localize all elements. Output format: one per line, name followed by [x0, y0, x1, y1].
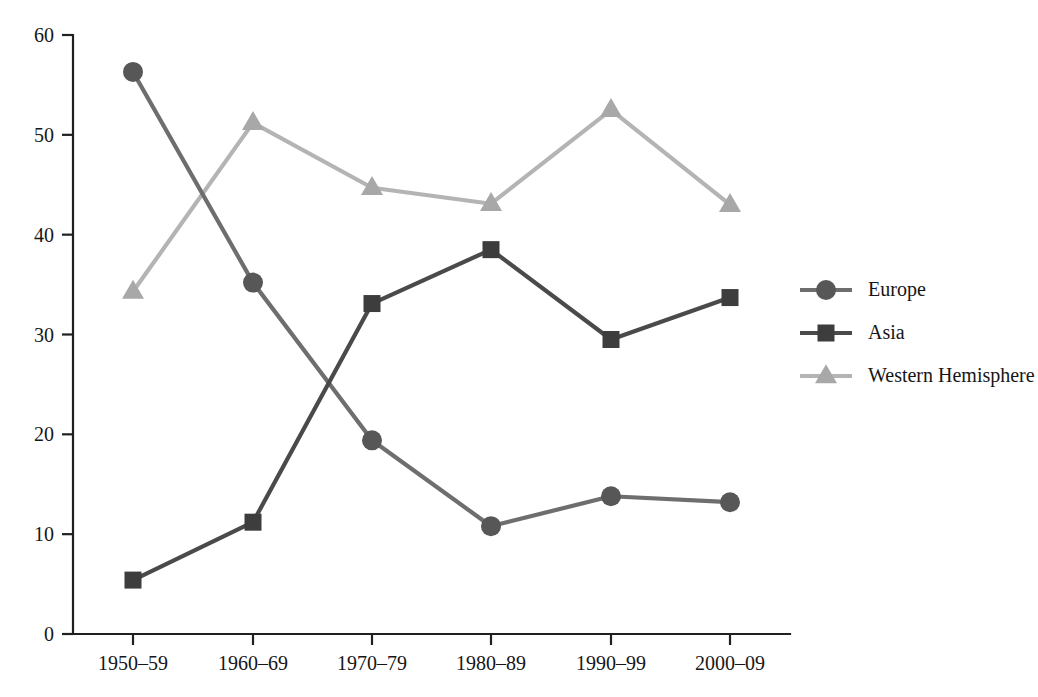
- data-point-europe-5-circle-marker: [720, 492, 740, 512]
- y-tick-label: 10: [34, 523, 54, 545]
- x-tick-label: 1950–59: [98, 652, 168, 674]
- legend-label: Asia: [868, 321, 905, 343]
- legend-item-europe[interactable]: Europe: [800, 278, 926, 301]
- x-axis: 1950–591960–691970–791980–891990–992000–…: [73, 634, 790, 674]
- data-point-western-hemisphere-5-triangle-marker: [719, 193, 741, 212]
- series-western-hemisphere: [122, 98, 741, 299]
- x-tick-label: 1980–89: [456, 652, 526, 674]
- data-point-asia-0-square-marker: [125, 572, 142, 589]
- data-point-asia-4-square-marker: [603, 331, 620, 348]
- data-point-europe-4-circle-marker: [601, 486, 621, 506]
- x-tick-label-group: 1950–591960–691970–791980–891990–992000–…: [98, 652, 765, 674]
- chart-legend: EuropeAsiaWestern Hemisphere: [800, 278, 1035, 387]
- series-line: [133, 110, 730, 292]
- x-tick-label: 1960–69: [218, 652, 288, 674]
- legend-item-western-hemisphere[interactable]: Western Hemisphere: [800, 364, 1035, 387]
- series-europe: [123, 62, 740, 536]
- series-layer: [122, 62, 741, 589]
- series-line: [133, 72, 730, 526]
- data-point-europe-3-circle-marker: [481, 516, 501, 536]
- legend-swatch-square-marker: [818, 325, 835, 342]
- y-tick-label: 30: [34, 324, 54, 346]
- legend-swatch-circle-marker: [816, 280, 836, 300]
- x-tick-group: [133, 634, 730, 645]
- series-line: [133, 250, 730, 580]
- data-point-asia-1-square-marker: [245, 514, 262, 531]
- chart-canvas: 0102030405060 1950–591960–691970–791980–…: [0, 0, 1038, 697]
- y-axis: 0102030405060: [34, 24, 73, 645]
- data-point-europe-1-circle-marker: [243, 273, 263, 293]
- x-tick-label: 1990–99: [576, 652, 646, 674]
- data-point-asia-3-square-marker: [483, 241, 500, 258]
- legend-label: Europe: [868, 278, 926, 301]
- series-asia: [125, 241, 739, 588]
- legend-swatch-triangle-marker: [815, 364, 837, 383]
- legend-label: Western Hemisphere: [868, 364, 1035, 387]
- data-point-europe-0-circle-marker: [123, 62, 143, 82]
- y-tick-group: [62, 35, 73, 634]
- data-point-asia-2-square-marker: [364, 295, 381, 312]
- y-tick-label: 60: [34, 24, 54, 46]
- y-tick-label: 50: [34, 124, 54, 146]
- y-tick-label: 20: [34, 423, 54, 445]
- data-point-western-hemisphere-4-triangle-marker: [600, 98, 622, 117]
- y-tick-label: 40: [34, 224, 54, 246]
- legend-item-asia[interactable]: Asia: [800, 321, 905, 343]
- data-point-europe-2-circle-marker: [362, 430, 382, 450]
- x-tick-label: 2000–09: [695, 652, 765, 674]
- line-chart: 0102030405060 1950–591960–691970–791980–…: [0, 0, 1038, 697]
- data-point-asia-5-square-marker: [722, 289, 739, 306]
- data-point-western-hemisphere-1-triangle-marker: [242, 111, 264, 130]
- x-tick-label: 1970–79: [337, 652, 407, 674]
- y-tick-label-group: 0102030405060: [34, 24, 54, 645]
- y-tick-label: 0: [44, 623, 54, 645]
